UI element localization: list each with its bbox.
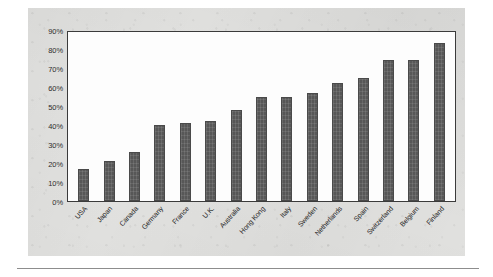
y-tick-label: 60% — [48, 84, 63, 93]
bar — [358, 78, 369, 202]
bar-slot — [198, 32, 223, 201]
bar-slot — [325, 32, 350, 201]
y-axis: 0%10%20%30%40%50%60%70%80%90% — [30, 24, 63, 209]
x-label-slot: Germany — [147, 204, 173, 252]
bar-slot — [96, 32, 121, 201]
x-label-slot: Japan — [96, 204, 122, 252]
y-tick-label: 80% — [48, 46, 63, 55]
x-tick-label: USA — [73, 205, 88, 220]
x-tick-label: Spain — [352, 205, 369, 223]
y-tick-label: 30% — [48, 141, 63, 150]
bar — [307, 93, 318, 201]
x-label-slot: Finland — [427, 204, 453, 252]
x-label-slot: France — [172, 204, 198, 252]
y-tick-label: 0% — [52, 198, 63, 207]
x-label-slot: Hong Kong — [249, 204, 275, 252]
bar — [154, 125, 165, 201]
y-tick-label: 70% — [48, 65, 63, 74]
y-tick-label: 50% — [48, 103, 63, 112]
bar — [104, 161, 115, 201]
x-tick-label: Sweden — [296, 205, 318, 228]
plot-area — [67, 31, 456, 202]
bar — [383, 60, 394, 201]
bar — [281, 97, 292, 202]
bar — [434, 43, 445, 201]
bar-slot — [223, 32, 248, 201]
x-label-slot: Netherlands — [325, 204, 351, 252]
x-tick-label: Canada — [118, 205, 139, 227]
x-label-slot: Switzerland — [376, 204, 402, 252]
x-tick-label: Italy — [279, 205, 292, 219]
x-label-slot: Belgium — [402, 204, 428, 252]
x-tick-label: France — [171, 205, 190, 225]
chart-figure: 0%10%20%30%40%50%60%70%80%90% USAJapanCa… — [0, 0, 493, 277]
bar-slot — [122, 32, 147, 201]
x-axis: USAJapanCanadaGermanyFranceU.K.Australia… — [67, 204, 456, 252]
bar-slot — [173, 32, 198, 201]
bar — [129, 152, 140, 201]
bar-slot — [249, 32, 274, 201]
bar — [180, 123, 191, 201]
y-tick-label: 40% — [48, 122, 63, 131]
bar — [78, 169, 89, 201]
bar — [408, 60, 419, 201]
bar — [256, 97, 267, 202]
bar — [332, 83, 343, 201]
page-divider-rule — [17, 268, 479, 269]
bar — [205, 121, 216, 201]
bar-slot — [300, 32, 325, 201]
x-label-slot: U.K. — [198, 204, 224, 252]
bar-slot — [350, 32, 375, 201]
x-tick-label: Finland — [425, 205, 445, 226]
bar — [231, 110, 242, 201]
bar-slot — [274, 32, 299, 201]
y-tick-label: 10% — [48, 179, 63, 188]
bar-slot — [376, 32, 401, 201]
x-tick-label: Japan — [96, 205, 114, 223]
x-label-slot: Italy — [274, 204, 300, 252]
x-label-slot: USA — [70, 204, 96, 252]
y-tick-label: 90% — [48, 27, 63, 36]
y-tick-label: 20% — [48, 160, 63, 169]
bar-slot — [147, 32, 172, 201]
x-tick-label: Belgium — [398, 205, 420, 228]
bar-slot — [401, 32, 426, 201]
x-tick-label: U.K. — [202, 205, 216, 220]
bar-slot — [71, 32, 96, 201]
bars-container — [68, 32, 455, 201]
bar-slot — [427, 32, 452, 201]
